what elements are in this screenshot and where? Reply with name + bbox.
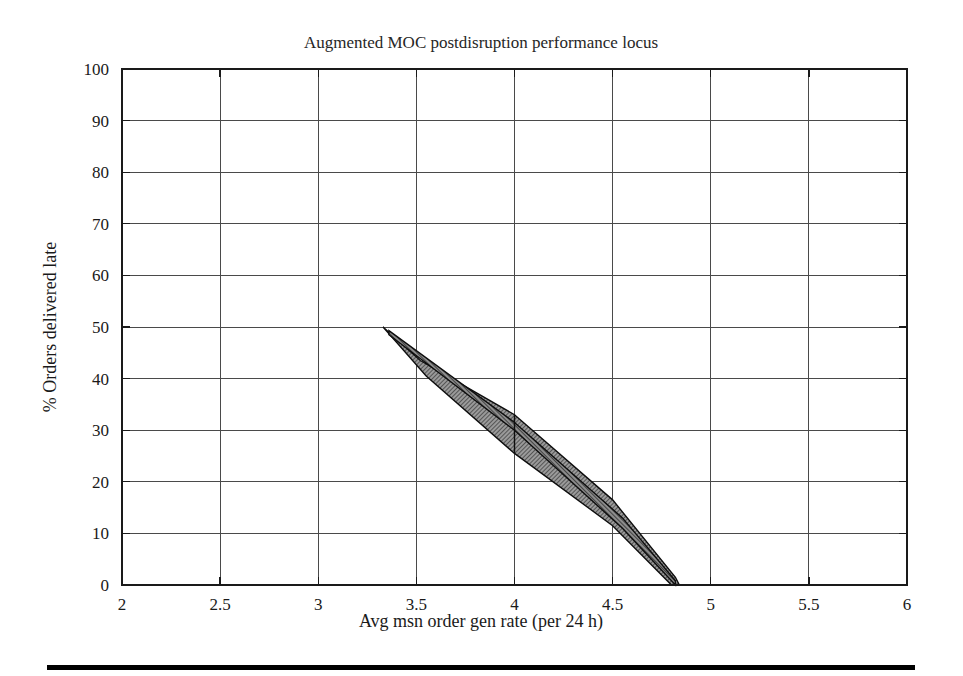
x-tick-label: 4.5 (602, 595, 623, 614)
y-tick-label: 100 (84, 60, 110, 79)
x-tick-label: 2 (118, 595, 127, 614)
y-tick-label: 50 (92, 318, 109, 337)
x-tick-label: 5 (707, 595, 716, 614)
x-axis-label: Avg msn order gen rate (per 24 h) (359, 611, 603, 632)
y-tick-label: 20 (92, 473, 109, 492)
x-tick-label: 3 (314, 595, 323, 614)
x-tick-label: 2.5 (210, 595, 231, 614)
y-tick-label: 0 (101, 576, 110, 595)
y-tick-label: 60 (92, 266, 109, 285)
y-tick-label: 80 (92, 163, 109, 182)
chart-title: Augmented MOC postdisruption performance… (304, 33, 658, 52)
y-tick-label: 70 (92, 215, 109, 234)
chart-figure: Augmented MOC postdisruption performance… (0, 0, 963, 676)
y-tick-label: 40 (92, 370, 109, 389)
y-tick-label: 10 (92, 524, 109, 543)
y-tick-label: 30 (92, 421, 109, 440)
y-axis-label: % Orders delivered late (40, 242, 60, 412)
plot-area (122, 69, 907, 585)
x-tick-label: 6 (903, 595, 912, 614)
x-tick-label: 5.5 (798, 595, 819, 614)
y-tick-label: 90 (92, 112, 109, 131)
